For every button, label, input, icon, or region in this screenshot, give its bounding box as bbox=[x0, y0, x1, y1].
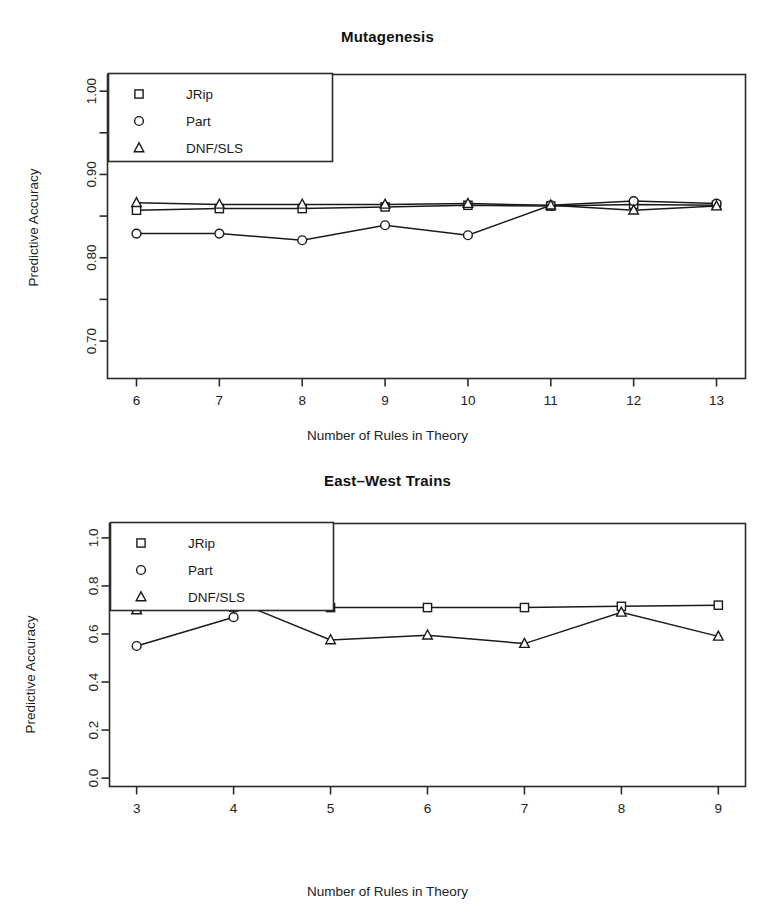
data-point-part bbox=[464, 231, 473, 240]
data-point-jrip bbox=[132, 206, 140, 214]
x-axis-title-mutagenesis: Number of Rules in Theory bbox=[0, 428, 775, 443]
data-point-part bbox=[298, 236, 307, 245]
y-tick-label: 0.4 bbox=[86, 672, 101, 691]
x-tick-label: 6 bbox=[133, 393, 141, 408]
data-point-part bbox=[381, 221, 390, 230]
x-axis-title-trains: Number of Rules in Theory bbox=[0, 884, 775, 899]
data-point-part bbox=[132, 229, 141, 238]
x-tick-label: 7 bbox=[216, 393, 224, 408]
data-point-jrip bbox=[714, 601, 722, 609]
legend-label-dnf-sls: DNF/SLS bbox=[186, 141, 243, 156]
legend-marker-part bbox=[135, 117, 144, 126]
data-point-part bbox=[215, 229, 224, 238]
x-tick-label: 8 bbox=[298, 393, 306, 408]
data-point-jrip bbox=[423, 603, 431, 611]
y-axis-ticks-trains: 0.00.20.40.60.81.0 bbox=[86, 529, 110, 788]
legend-label-jrip: JRip bbox=[186, 87, 213, 102]
x-tick-label: 10 bbox=[460, 393, 475, 408]
legend-mutagenesis: JRipPartDNF/SLS bbox=[109, 74, 333, 162]
y-tick-label: 1.0 bbox=[86, 529, 101, 548]
y-tick-label: 0.2 bbox=[86, 721, 101, 740]
y-axis-title-trains: Predictive Accuracy bbox=[23, 585, 38, 765]
x-tick-label: 9 bbox=[715, 801, 723, 816]
x-axis-ticks-trains: 3456789 bbox=[133, 787, 722, 816]
x-tick-label: 11 bbox=[544, 393, 558, 408]
y-tick-label: 1.00 bbox=[84, 78, 99, 104]
x-tick-label: 8 bbox=[618, 801, 626, 816]
y-axis-ticks-mutagenesis: 0.700.800.901.00 bbox=[84, 78, 108, 354]
data-line-part bbox=[137, 617, 234, 646]
legend-trains: JRipPartDNF/SLS bbox=[111, 523, 334, 611]
chart-title-mutagenesis: Mutagenesis bbox=[0, 28, 775, 45]
chart-panel-mutagenesis: Mutagenesis Number of Rules in Theory Pr… bbox=[0, 0, 775, 460]
x-tick-label: 7 bbox=[521, 801, 529, 816]
x-tick-label: 3 bbox=[133, 801, 141, 816]
chart-svg-mutagenesis: 0.700.800.901.00 678910111213 JRipPartDN… bbox=[0, 0, 775, 460]
x-tick-label: 4 bbox=[230, 801, 238, 816]
legend-label-part: Part bbox=[188, 563, 213, 578]
data-point-dnf-sls bbox=[132, 198, 142, 207]
data-series-group-mutagenesis bbox=[132, 197, 722, 245]
data-point-part bbox=[132, 642, 141, 651]
x-tick-label: 6 bbox=[424, 801, 432, 816]
data-point-dnf-sls bbox=[423, 630, 433, 639]
legend-label-jrip: JRip bbox=[188, 536, 215, 551]
y-tick-label: 0.70 bbox=[84, 328, 99, 354]
figure-root: Mutagenesis Number of Rules in Theory Pr… bbox=[0, 0, 775, 913]
y-tick-label: 0.80 bbox=[84, 245, 99, 271]
data-point-part bbox=[229, 613, 238, 622]
y-tick-label: 0.0 bbox=[86, 769, 101, 788]
legend-marker-jrip bbox=[135, 90, 143, 98]
y-tick-label: 0.90 bbox=[84, 161, 99, 187]
y-axis-title-mutagenesis: Predictive Accuracy bbox=[26, 138, 41, 318]
legend-marker-part bbox=[137, 566, 146, 575]
chart-svg-trains: 0.00.20.40.60.81.0 3456789 JRipPartDNF/S… bbox=[0, 452, 775, 913]
chart-title-trains: East–West Trains bbox=[0, 472, 775, 489]
legend-label-part: Part bbox=[186, 114, 211, 129]
chart-panel-trains: East–West Trains Number of Rules in Theo… bbox=[0, 452, 775, 913]
data-point-jrip bbox=[520, 603, 528, 611]
x-tick-label: 12 bbox=[626, 393, 641, 408]
x-tick-label: 9 bbox=[381, 393, 389, 408]
legend-marker-jrip bbox=[137, 539, 145, 547]
y-tick-label: 0.8 bbox=[86, 577, 101, 596]
legend-label-dnf-sls: DNF/SLS bbox=[188, 590, 245, 605]
x-tick-label: 5 bbox=[327, 801, 335, 816]
y-tick-label: 0.6 bbox=[86, 625, 101, 644]
x-axis-ticks-mutagenesis: 678910111213 bbox=[133, 379, 724, 408]
x-tick-label: 13 bbox=[709, 393, 724, 408]
